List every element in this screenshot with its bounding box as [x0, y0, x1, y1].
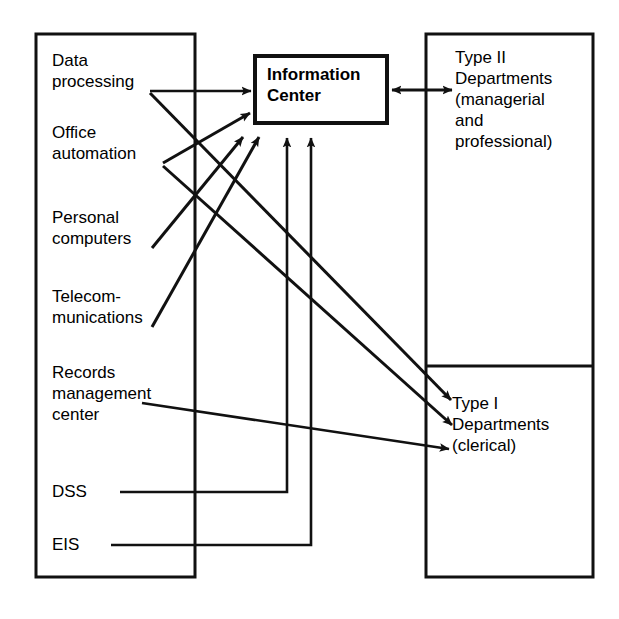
connector-office-automation-to-type-i	[163, 166, 452, 425]
label-office-automation: Office automation	[52, 122, 136, 164]
diagram-canvas: Data processing Office automation Person…	[0, 0, 619, 619]
label-telecommunications: Telecom- munications	[52, 286, 143, 328]
connector-telecommunications-to-information-center	[152, 137, 259, 327]
label-type-ii-departments: Type II Departments (managerial and prof…	[455, 47, 552, 152]
label-type-i-departments: Type I Departments (clerical)	[452, 393, 549, 456]
connector-records-management-to-type-i	[142, 403, 449, 449]
label-personal-computers: Personal computers	[52, 207, 131, 249]
label-information-center: Information Center	[267, 64, 361, 106]
connector-eis-to-information-center	[111, 138, 311, 545]
label-eis: EIS	[52, 534, 79, 555]
label-data-processing: Data processing	[52, 50, 134, 92]
label-dss: DSS	[52, 481, 87, 502]
label-records-management-center: Records management center	[52, 362, 151, 425]
connector-dss-to-information-center	[120, 138, 287, 492]
